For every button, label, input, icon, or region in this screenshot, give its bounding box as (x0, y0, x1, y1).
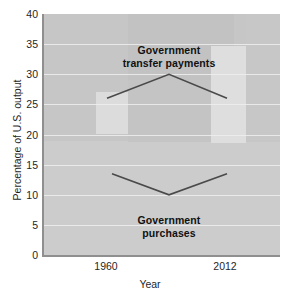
x-tick-2012: 2012 (213, 260, 236, 272)
chart-figure: Government transfer payments Government … (0, 0, 300, 297)
y-tick-40: 40 (18, 8, 38, 20)
x-tick-1960: 1960 (94, 260, 117, 272)
y-tick-0: 0 (18, 249, 38, 261)
x-axis-title: Year (0, 278, 300, 290)
y-axis: 40 35 30 25 20 15 10 5 0 (0, 0, 300, 297)
y-axis-title: Percentage of U.S. output (11, 50, 23, 230)
y-tick-35: 35 (18, 38, 38, 50)
